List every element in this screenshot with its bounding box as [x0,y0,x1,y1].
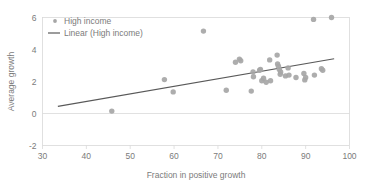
trend-line [58,59,334,107]
y-tick-label: 4 [32,45,37,55]
data-point [238,58,243,63]
data-point [249,88,254,93]
data-point [278,69,283,74]
data-point [286,72,291,77]
data-point [267,57,272,62]
x-axis-title: Fraction in positive growth [147,170,246,180]
chart-container: -2024630405060708090100Fraction in posit… [0,0,368,184]
data-point [201,28,206,33]
data-point [109,108,114,113]
data-point [170,89,175,94]
y-tick-label: 0 [32,109,37,119]
data-point [251,74,256,79]
data-point [311,17,316,22]
x-tick-label: 90 [301,151,311,161]
data-point [303,75,308,80]
data-point [268,78,273,83]
data-point [320,68,325,73]
data-point [162,77,167,82]
x-tick-label: 40 [82,151,92,161]
legend-label-linear: Linear (High income) [64,28,143,38]
y-axis-title: Average growth [6,52,16,112]
data-point [312,72,317,77]
data-point [274,52,279,57]
data-point [250,69,255,74]
x-tick-label: 60 [169,151,179,161]
x-tick-label: 80 [257,151,267,161]
y-tick-label: 6 [32,13,37,23]
data-point [224,88,229,93]
y-tick-label: -2 [29,141,37,151]
data-point [293,75,298,80]
x-tick-label: 100 [342,151,356,161]
data-point [329,15,334,20]
x-tick-label: 30 [38,151,48,161]
data-point [258,67,263,72]
x-tick-label: 50 [125,151,135,161]
legend-label-high-income: High income [64,16,112,26]
y-tick-label: 2 [32,77,37,87]
data-point [285,65,290,70]
legend-marker-scatter [53,19,57,23]
x-tick-label: 70 [213,151,223,161]
scatter-chart: -2024630405060708090100Fraction in posit… [0,0,368,184]
